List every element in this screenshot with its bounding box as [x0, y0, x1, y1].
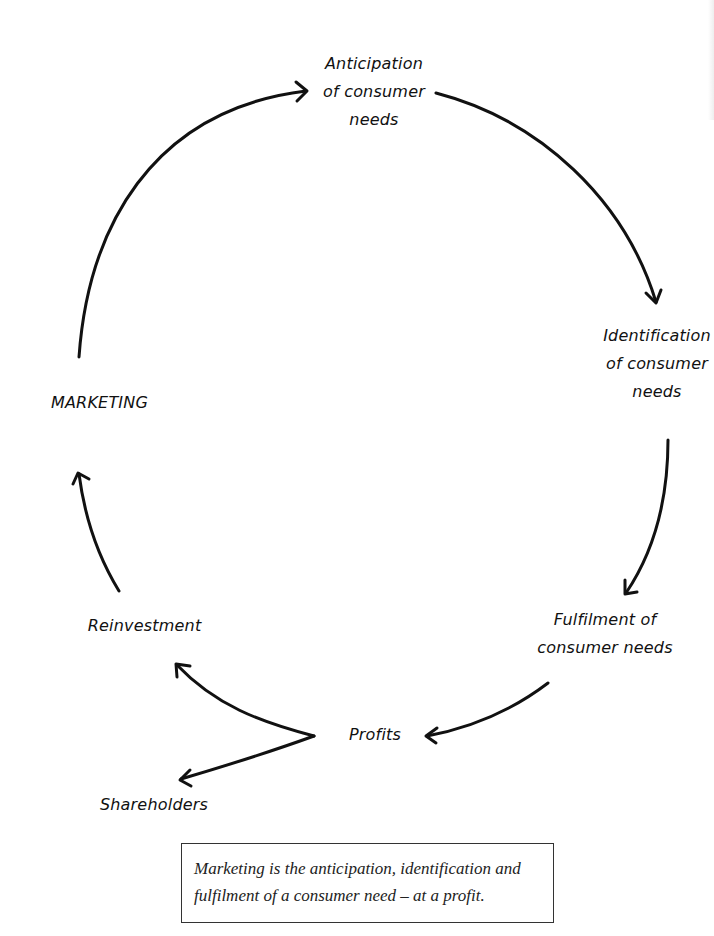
node-fulfilment-line-1: Fulfilment of	[530, 606, 680, 634]
node-profits: Profits	[340, 721, 410, 749]
arrow-marketing-to-anticipation	[79, 82, 307, 357]
node-identification: Identification of consumer needs	[592, 322, 714, 406]
node-identification-line-1: Identification	[592, 322, 714, 350]
node-reinvestment: Reinvestment	[82, 612, 207, 640]
node-fulfilment-line-2: consumer needs	[530, 634, 680, 662]
arrow-profits-to-reinvestment	[176, 664, 314, 736]
arrow-reinvestment-to-marketing	[73, 473, 119, 591]
arrow-identification-to-fulfilment	[625, 440, 668, 594]
node-marketing-label: MARKETING	[42, 389, 157, 417]
node-anticipation: Anticipation of consumer needs	[314, 50, 434, 134]
node-shareholders-label: Shareholders	[94, 791, 214, 819]
node-anticipation-line-2: of consumer	[314, 78, 434, 106]
node-identification-line-2: of consumer	[592, 350, 714, 378]
marketing-cycle-diagram: Anticipation of consumer needs Identific…	[0, 0, 714, 936]
node-fulfilment: Fulfilment of consumer needs	[530, 606, 680, 662]
node-shareholders: Shareholders	[94, 791, 214, 819]
node-marketing: MARKETING	[42, 389, 157, 417]
arrow-profits-to-shareholders	[180, 736, 314, 786]
definition-line-1: Marketing is the anticipation, identific…	[194, 855, 553, 882]
node-anticipation-line-3: needs	[314, 106, 434, 134]
definition-line-2: fulfilment of a consumer need – at a pro…	[194, 882, 553, 909]
arrow-anticipation-to-identification	[436, 93, 661, 303]
node-anticipation-line-1: Anticipation	[314, 50, 434, 78]
definition-box: Marketing is the anticipation, identific…	[181, 843, 554, 923]
node-identification-line-3: needs	[592, 378, 714, 406]
arrow-fulfilment-to-profits	[426, 683, 548, 743]
node-profits-label: Profits	[340, 721, 410, 749]
node-reinvestment-label: Reinvestment	[82, 612, 207, 640]
